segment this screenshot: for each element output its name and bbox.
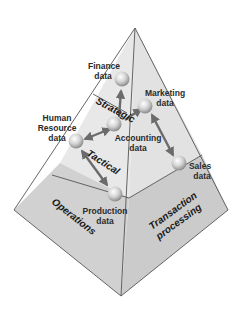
finance-label-line2: data	[94, 71, 112, 81]
hr-label-line3: data	[48, 133, 66, 143]
hr-label-line1: Human	[43, 113, 72, 123]
finance-label-line1: Finance	[88, 61, 120, 71]
marketing-label-line1: Marketing	[145, 88, 185, 98]
pyramid-diagram: Finance data Marketing data Accounting d…	[0, 0, 242, 311]
sales-data-node	[172, 156, 187, 171]
accounting-label-line2: data	[129, 143, 147, 153]
marketing-label-line2: data	[156, 98, 174, 108]
sales-label-line2: data	[193, 171, 211, 181]
production-data-node	[108, 187, 123, 202]
human-resource-data-node	[69, 134, 84, 149]
hr-label-line2: Resource	[38, 123, 77, 133]
production-label-line2: data	[96, 216, 114, 226]
sales-label-line1: Sales	[189, 161, 211, 171]
finance-data-node	[115, 72, 130, 87]
production-label-line1: Production	[83, 206, 128, 216]
accounting-data-node	[107, 117, 122, 132]
accounting-label-line1: Accounting	[115, 133, 162, 143]
marketing-data-node	[138, 99, 153, 114]
